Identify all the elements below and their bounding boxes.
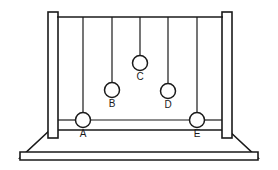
- ball-label-e: E: [194, 128, 201, 139]
- cradle-drawing: A B C D E: [0, 0, 278, 170]
- ball-e: [190, 113, 205, 128]
- base-front-bar: [20, 152, 258, 160]
- newtons-cradle-figure: A B C D E: [0, 0, 278, 170]
- ball-c: [133, 56, 148, 71]
- ball-a: [76, 113, 91, 128]
- right-post: [222, 12, 232, 138]
- ball-label-b: B: [109, 98, 116, 109]
- ball-labels: A B C D E: [80, 71, 201, 139]
- ball-d: [161, 84, 176, 99]
- ball-label-c: C: [136, 71, 143, 82]
- ball-label-d: D: [164, 99, 171, 110]
- pendulum-balls: [76, 56, 205, 128]
- ball-b: [105, 83, 120, 98]
- left-post: [48, 12, 58, 138]
- ball-label-a: A: [80, 128, 87, 139]
